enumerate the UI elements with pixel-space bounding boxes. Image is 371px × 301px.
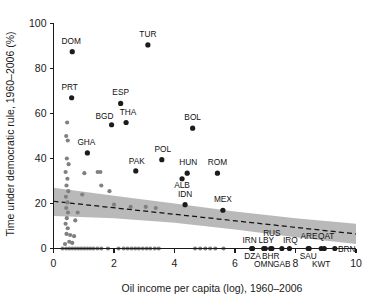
data-point-label: KWT xyxy=(312,259,330,269)
data-point xyxy=(64,134,68,138)
data-point xyxy=(99,183,103,187)
data-point xyxy=(144,205,148,209)
data-point xyxy=(124,120,129,125)
data-point xyxy=(80,192,84,196)
data-point-label: IRQ xyxy=(283,235,298,245)
data-point xyxy=(69,95,74,100)
data-point xyxy=(68,233,72,237)
x-axis-title: Oil income per capita (log), 1960–2006 xyxy=(122,282,303,294)
data-point xyxy=(185,171,190,176)
data-point xyxy=(73,218,77,222)
data-point xyxy=(65,177,69,181)
y-tick-label: 0 xyxy=(41,242,47,254)
x-tick-label: 8 xyxy=(293,257,299,269)
data-point-label: DOM xyxy=(62,36,81,46)
data-point xyxy=(182,202,187,207)
x-tick-label: 0 xyxy=(51,257,57,269)
data-point xyxy=(154,206,158,210)
data-point-label: POL xyxy=(154,144,171,154)
data-point xyxy=(63,242,67,246)
y-tick-label: 80 xyxy=(35,62,47,74)
data-point xyxy=(118,101,123,106)
scatter-plot-figure: DOMTURPRTESPBGDTHABOLGHAPOLPAKHUNROMALBI… xyxy=(0,0,371,301)
point-label-group: DOMTURPRTESPBGDTHABOLGHAPOLPAKHUNROMALBI… xyxy=(61,29,355,269)
x-tick-label: 6 xyxy=(232,257,238,269)
data-point xyxy=(64,183,68,187)
data-point-label: IRN xyxy=(242,235,256,245)
data-point-label: HUN xyxy=(179,157,197,167)
data-point xyxy=(76,210,80,214)
data-point xyxy=(64,170,68,174)
data-point xyxy=(65,120,69,124)
data-point xyxy=(190,126,195,131)
data-point-label: ROM xyxy=(208,157,227,167)
data-point-label: BGD xyxy=(96,111,114,121)
y-axis-title: Time under democratic rule, 1960–2006 (%… xyxy=(4,31,16,236)
data-point xyxy=(66,189,70,193)
data-point xyxy=(85,150,90,155)
data-point-label: IDN xyxy=(178,189,192,199)
plot-canvas: DOMTURPRTESPBGDTHABOLGHAPOLPAKHUNROMALBI… xyxy=(0,0,371,301)
data-point-label: PAK xyxy=(129,156,145,166)
data-point-label: BOL xyxy=(184,112,201,122)
y-axis-ticks: 020406080100 xyxy=(29,17,54,254)
data-point-label: ESP xyxy=(112,87,129,97)
data-point xyxy=(98,170,102,174)
y-tick-label: 40 xyxy=(35,152,47,164)
data-point xyxy=(145,42,150,47)
data-point xyxy=(215,171,220,176)
data-point-label: THA xyxy=(120,107,137,117)
data-point xyxy=(64,222,68,226)
data-point-label: GAB xyxy=(273,259,291,269)
data-point xyxy=(70,241,74,245)
x-tick-label: 10 xyxy=(350,257,362,269)
x-tick-label: 4 xyxy=(172,257,178,269)
data-point-label: PRT xyxy=(61,82,77,92)
data-point xyxy=(129,205,133,209)
data-point xyxy=(220,208,225,213)
data-point-label: QAT xyxy=(318,231,334,241)
data-point xyxy=(72,234,76,238)
data-point xyxy=(64,232,68,236)
data-point xyxy=(66,226,70,230)
data-point xyxy=(109,122,114,127)
data-point xyxy=(65,200,69,204)
data-point-label: TUR xyxy=(139,29,156,39)
data-point-label: ARE xyxy=(301,231,319,241)
x-tick-label: 2 xyxy=(111,257,117,269)
data-point xyxy=(133,168,138,173)
data-point xyxy=(64,206,68,210)
y-tick-label: 60 xyxy=(35,107,47,119)
data-point-label: LBY xyxy=(258,235,274,245)
data-point xyxy=(67,162,71,166)
data-point xyxy=(159,157,164,162)
data-point xyxy=(112,203,116,207)
y-tick-label: 100 xyxy=(29,17,47,29)
data-point-label: MEX xyxy=(214,194,232,204)
data-point-label: OMN xyxy=(254,259,273,269)
data-point xyxy=(65,156,69,160)
data-point xyxy=(70,49,75,54)
data-point xyxy=(66,210,70,214)
data-point xyxy=(107,189,111,193)
data-point xyxy=(65,216,69,220)
data-point xyxy=(64,195,68,199)
data-point-label: GHA xyxy=(77,137,95,147)
y-tick-label: 20 xyxy=(35,197,47,209)
data-point xyxy=(66,138,70,142)
data-point xyxy=(82,171,86,175)
